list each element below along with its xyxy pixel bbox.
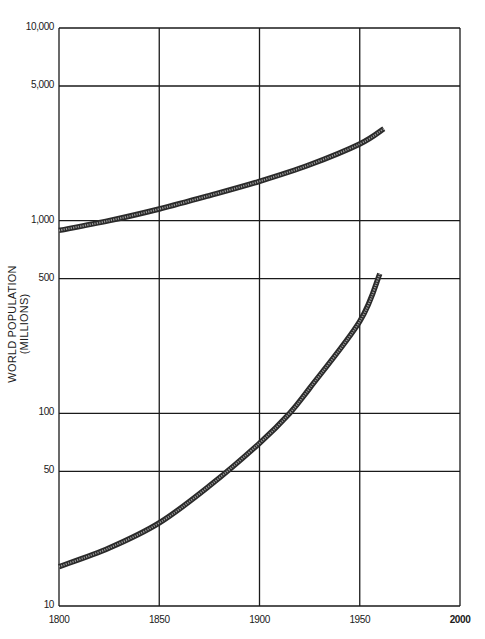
x-tick-label: 2000	[440, 614, 480, 625]
curve-hatch	[59, 129, 384, 231]
lower-population-curve	[59, 274, 380, 567]
grid-lines	[59, 28, 460, 606]
y-axis-label: WORLD POPULATION (MILLIONS)	[6, 244, 30, 404]
x-tick-label: 1800	[39, 614, 79, 625]
upper-population-curve	[59, 129, 384, 231]
curve-hatch	[59, 274, 380, 567]
data-curves	[59, 129, 384, 567]
y-tick-label: 1,000	[2, 214, 54, 225]
y-tick-label: 100	[2, 406, 54, 417]
y-tick-label: 5,000	[2, 79, 54, 90]
y-tick-label: 10	[2, 599, 54, 610]
x-tick-label: 1900	[240, 614, 280, 625]
chart-plot	[0, 0, 485, 639]
y-tick-label: 10,000	[2, 21, 54, 32]
x-tick-label: 1850	[139, 614, 179, 625]
x-tick-label: 1950	[340, 614, 380, 625]
y-tick-label: 50	[2, 464, 54, 475]
